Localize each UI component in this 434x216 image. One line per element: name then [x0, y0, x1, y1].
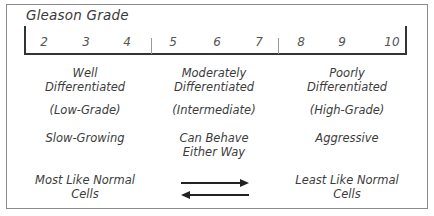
- scale-tick: 2: [40, 35, 48, 49]
- line: Least Like Normal: [277, 173, 417, 187]
- least-like-normal-label: Least Like Normal Cells: [277, 173, 417, 201]
- scale-tick: 6: [213, 35, 221, 49]
- scale-tick: 4: [123, 35, 131, 49]
- intermediate-differentiation: Moderately Differentiated: [144, 66, 284, 94]
- intermediate-behavior: Can Behave Either Way: [144, 131, 284, 159]
- scale-tick: 3: [82, 35, 90, 49]
- high-grade-differentiation: Poorly Differentiated: [277, 66, 417, 94]
- line: Well: [15, 66, 155, 80]
- scale-divider-intermediate-high: [278, 38, 279, 54]
- line: Poorly: [277, 66, 417, 80]
- line: Differentiated: [144, 80, 284, 94]
- intermediate-label: (Intermediate): [144, 103, 284, 117]
- line: Cells: [277, 187, 417, 201]
- most-like-normal-label: Most Like Normal Cells: [15, 173, 155, 201]
- scale-divider-low-intermediate: [151, 38, 152, 54]
- scale-right-edge: [405, 26, 407, 54]
- line: Cells: [15, 187, 155, 201]
- line: Moderately: [144, 66, 284, 80]
- scale-baseline: [24, 53, 407, 55]
- line: Can Behave: [144, 131, 284, 145]
- low-grade-behavior: Slow-Growing: [15, 131, 155, 145]
- line: Slow-Growing: [15, 131, 155, 145]
- line: Aggressive: [277, 131, 417, 145]
- high-grade-behavior: Aggressive: [277, 131, 417, 145]
- scale-tick: 9: [338, 35, 346, 49]
- line: Differentiated: [277, 80, 417, 94]
- line: Either Way: [144, 145, 284, 159]
- line: Most Like Normal: [15, 173, 155, 187]
- scale-tick: 5: [169, 35, 177, 49]
- scale-tick: 7: [255, 35, 263, 49]
- left-arrow-icon: [183, 194, 249, 196]
- high-grade-label: (High-Grade): [277, 103, 417, 117]
- line: Differentiated: [15, 80, 155, 94]
- scale-tick: 10: [384, 35, 399, 49]
- low-grade-label: (Low-Grade): [15, 103, 155, 117]
- right-arrow-icon: [181, 182, 247, 184]
- diagram-title: Gleason Grade: [26, 7, 129, 23]
- low-grade-differentiation: Well Differentiated: [15, 66, 155, 94]
- scale-left-edge: [24, 26, 26, 54]
- scale-tick: 8: [297, 35, 305, 49]
